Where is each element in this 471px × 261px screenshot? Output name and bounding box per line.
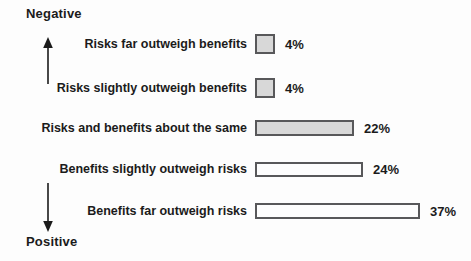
value-label: 37% bbox=[430, 205, 456, 218]
risk-benefit-bar-chart: Negative Risks far outweigh benefits 4% … bbox=[0, 0, 471, 261]
bar bbox=[255, 162, 363, 177]
bar bbox=[255, 34, 275, 54]
value-label: 4% bbox=[285, 38, 304, 51]
chart-row: Risks far outweigh benefits 4% bbox=[0, 34, 304, 54]
chart-rows: Risks far outweigh benefits 4% Risks sli… bbox=[0, 0, 471, 261]
arrow-down-icon bbox=[40, 181, 56, 233]
category-label: Benefits slightly outweigh risks bbox=[0, 163, 247, 176]
chart-row: Benefits far outweigh risks 37% bbox=[0, 203, 456, 219]
value-label: 4% bbox=[285, 82, 304, 95]
chart-row: Risks slightly outweigh benefits 4% bbox=[0, 78, 304, 98]
category-label: Risks slightly outweigh benefits bbox=[0, 82, 247, 95]
category-label: Risks far outweigh benefits bbox=[0, 38, 247, 51]
positive-axis-label: Positive bbox=[26, 234, 77, 249]
chart-row: Benefits slightly outweigh risks 24% bbox=[0, 162, 399, 177]
category-label: Risks and benefits about the same bbox=[0, 122, 247, 135]
category-label: Benefits far outweigh risks bbox=[0, 205, 247, 218]
value-label: 24% bbox=[373, 163, 399, 176]
bar bbox=[255, 203, 420, 219]
chart-row: Risks and benefits about the same 22% bbox=[0, 120, 390, 136]
bar bbox=[255, 78, 275, 98]
bar bbox=[255, 120, 354, 136]
value-label: 22% bbox=[364, 122, 390, 135]
